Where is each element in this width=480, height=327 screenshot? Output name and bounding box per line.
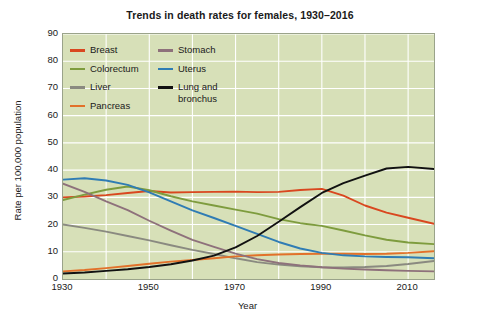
chart-title: Trends in death rates for females, 1930–…	[0, 9, 480, 21]
y-tick-label: 10	[32, 245, 58, 256]
y-axis-label: Rate per 100,000 population	[12, 66, 23, 256]
y-tick-label: 80	[32, 54, 58, 65]
series-line-uterus	[63, 178, 434, 258]
legend-label: Lung and bronchus	[178, 81, 218, 104]
chart-figure: Trends in death rates for females, 1930–…	[0, 0, 480, 327]
legend-swatch-icon	[158, 86, 173, 89]
x-tick-label: 2010	[387, 281, 427, 292]
x-tick-label: 1990	[301, 281, 341, 292]
series-line-colorectum	[63, 186, 434, 244]
legend-item[interactable]: Pancreas	[70, 100, 139, 112]
y-tick-label: 50	[32, 136, 58, 147]
legend-item[interactable]: Breast	[70, 44, 139, 56]
y-tick-label: 60	[32, 109, 58, 120]
legend-column-2: StomachUterusLung and bronchus	[158, 44, 218, 100]
legend-swatch-icon	[70, 105, 85, 108]
y-tick-label: 30	[32, 190, 58, 201]
legend-swatch-icon	[70, 68, 85, 71]
legend-column-1: BreastColorectumLiverPancreas	[70, 44, 139, 118]
legend-item[interactable]: Colorectum	[70, 63, 139, 75]
legend-swatch-icon	[70, 86, 85, 89]
legend-label: Liver	[90, 81, 111, 93]
x-tick-label: 1950	[128, 281, 168, 292]
legend-label: Breast	[90, 44, 117, 56]
y-tick-label: 70	[32, 81, 58, 92]
legend-item[interactable]: Lung and bronchus	[158, 81, 218, 93]
x-tick-label: 1970	[215, 281, 255, 292]
legend-swatch-icon	[158, 68, 173, 71]
y-tick-label: 20	[32, 218, 58, 229]
legend-label: Uterus	[178, 63, 206, 75]
legend-item[interactable]: Stomach	[158, 44, 218, 56]
legend-label: Colorectum	[90, 63, 139, 75]
legend-item[interactable]: Liver	[70, 81, 139, 93]
y-axis-tick-labels: 0102030405060708090	[30, 0, 58, 327]
x-axis-label: Year	[62, 300, 433, 311]
y-tick-label: 90	[32, 27, 58, 38]
legend-label: Stomach	[178, 44, 216, 56]
legend-label: Pancreas	[90, 100, 130, 112]
legend-swatch-icon	[70, 49, 85, 52]
legend-item[interactable]: Uterus	[158, 63, 218, 75]
x-tick-label: 1930	[42, 281, 82, 292]
legend-swatch-icon	[158, 49, 173, 52]
y-tick-label: 40	[32, 163, 58, 174]
